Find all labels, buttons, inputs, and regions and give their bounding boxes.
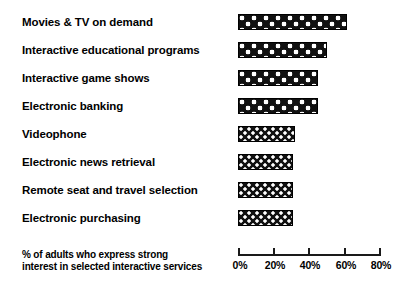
bar-chart: Movies & TV on demand Interactive educat… — [0, 0, 413, 285]
bar — [238, 126, 295, 142]
bar — [238, 154, 293, 170]
chart-caption: % of adults who express strong interest … — [22, 249, 237, 272]
bar-category-label: Electronic news retrieval — [22, 148, 230, 176]
bar-category-label: Interactive game shows — [22, 64, 230, 92]
bar-category-label: Electronic purchasing — [22, 204, 230, 232]
bar-category-label: Interactive educational programs — [22, 36, 230, 64]
x-axis-tick — [273, 248, 275, 256]
chart-row: Remote seat and travel selection — [0, 176, 413, 204]
bar-track — [238, 8, 408, 36]
bar — [238, 14, 347, 30]
chart-row: Electronic purchasing — [0, 204, 413, 232]
x-axis: 0% 20% 40% 60% 80% — [238, 248, 381, 280]
chart-row: Movies & TV on demand — [0, 8, 413, 36]
bar-track — [238, 36, 408, 64]
chart-row: Electronic news retrieval — [0, 148, 413, 176]
x-axis-tick — [379, 248, 381, 256]
chart-row: Interactive game shows — [0, 64, 413, 92]
bar-track — [238, 120, 408, 148]
bar — [238, 210, 293, 226]
x-axis-tick-label: 40% — [295, 259, 325, 271]
bar-track — [238, 176, 408, 204]
x-axis-tick — [238, 248, 240, 256]
bar-category-label: Videophone — [22, 120, 230, 148]
x-axis-tick — [308, 248, 310, 256]
bar-track — [238, 64, 408, 92]
bar — [238, 98, 318, 114]
x-axis-tick-label: 20% — [260, 259, 290, 271]
bar — [238, 70, 318, 86]
x-axis-tick-label: 0% — [225, 259, 255, 271]
chart-caption-line-1: % of adults who express strong — [22, 249, 237, 261]
bar-track — [238, 148, 408, 176]
bar — [238, 42, 327, 58]
bar-category-label: Remote seat and travel selection — [22, 176, 230, 204]
chart-row: Electronic banking — [0, 92, 413, 120]
x-axis-tick-label: 60% — [331, 259, 361, 271]
x-axis-tick-label: 80% — [366, 259, 396, 271]
bar-track — [238, 204, 408, 232]
bar-track — [238, 92, 408, 120]
bar-category-label: Movies & TV on demand — [22, 8, 230, 36]
chart-row: Interactive educational programs — [0, 36, 413, 64]
chart-caption-line-2: interest in selected interactive service… — [22, 261, 237, 273]
bar — [238, 182, 293, 198]
x-axis-tick — [344, 248, 346, 256]
chart-row: Videophone — [0, 120, 413, 148]
bar-category-label: Electronic banking — [22, 92, 230, 120]
